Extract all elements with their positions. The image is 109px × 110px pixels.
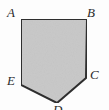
- pentagon-shape: [21, 19, 87, 103]
- vertex-label-b: B: [87, 6, 95, 19]
- vertex-label-d: D: [53, 103, 62, 110]
- geometry-figure: A B C D E: [0, 0, 109, 110]
- vertex-label-a: A: [7, 6, 15, 19]
- vertex-label-c: C: [90, 68, 99, 81]
- vertex-label-e: E: [7, 74, 15, 87]
